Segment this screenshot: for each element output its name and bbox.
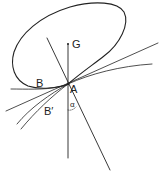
secant-line bbox=[47, 38, 110, 170]
label-G: G bbox=[72, 39, 81, 50]
point-A bbox=[67, 83, 70, 86]
label-alpha: α bbox=[70, 101, 75, 109]
curve-through-B bbox=[11, 64, 152, 89]
oval-curve bbox=[13, 3, 126, 88]
label-B: B bbox=[36, 78, 43, 89]
label-A: A bbox=[70, 84, 77, 95]
label-B-prime: B′ bbox=[44, 106, 53, 117]
geometry-diagram bbox=[0, 0, 163, 178]
tangent-line bbox=[6, 43, 158, 111]
point-G bbox=[67, 43, 69, 45]
